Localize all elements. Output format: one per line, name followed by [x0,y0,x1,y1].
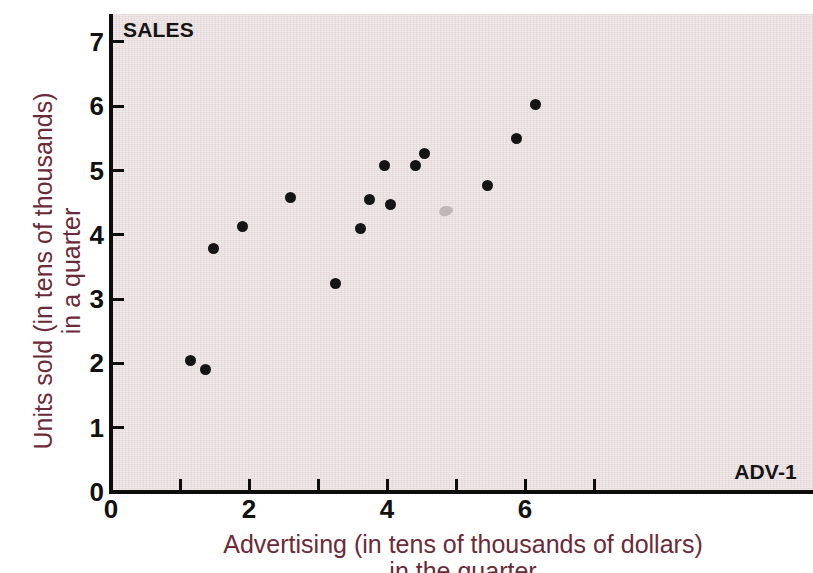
data-point-7 [364,194,375,205]
x-tick-6 [524,479,527,490]
sales-axis-annotation: SALES [123,18,194,42]
x-tick-label-0: 0 [91,496,131,522]
data-point-5 [330,278,341,289]
data-point-14 [511,133,522,144]
scatter-plot-figure: SALES ADV-1 01234567 0246 Advertising (i… [0,0,813,573]
data-point-2 [208,243,219,254]
y-axis-title-line1: Units sold (in tens of thousands) [29,21,57,521]
x-tick-label-6: 6 [505,496,545,522]
x-axis-title: Advertising (in tens of thousands of dol… [113,531,813,573]
data-point-15 [530,99,541,110]
x-tick-3 [317,479,320,490]
data-point-6 [355,223,366,234]
y-tick-4 [113,233,124,236]
data-point-1 [200,364,211,375]
data-point-12 [438,205,453,217]
x-axis-spine [109,490,813,494]
x-axis-title-line1: Advertising (in tens of thousands of dol… [223,530,702,558]
plot-area: SALES ADV-1 [113,14,813,492]
adv-axis-annotation: ADV-1 [734,460,797,484]
y-tick-3 [113,298,124,301]
paper-grain-texture [113,14,813,492]
y-tick-6 [113,105,124,108]
x-tick-2 [248,479,251,490]
y-tick-1 [113,426,124,429]
data-point-0 [185,355,196,366]
x-axis-title-line2: in the quarter [113,558,813,573]
y-axis-spine [109,14,113,494]
data-point-9 [385,199,396,210]
y-axis-title: Units sold (in tens of thousands) in a q… [29,21,85,521]
x-tick-label-2: 2 [229,496,269,522]
data-point-11 [419,148,430,159]
y-tick-5 [113,169,124,172]
data-point-3 [237,221,248,232]
x-tick-5 [455,479,458,490]
y-tick-2 [113,362,124,365]
y-tick-7 [113,40,124,43]
data-point-13 [482,180,493,191]
x-tick-7 [593,479,596,490]
data-point-4 [285,192,296,203]
x-tick-1 [179,479,182,490]
data-point-10 [410,160,421,171]
x-tick-label-4: 4 [367,496,407,522]
x-tick-4 [386,479,389,490]
y-axis-title-line2: in a quarter [57,21,85,521]
data-point-8 [379,160,390,171]
